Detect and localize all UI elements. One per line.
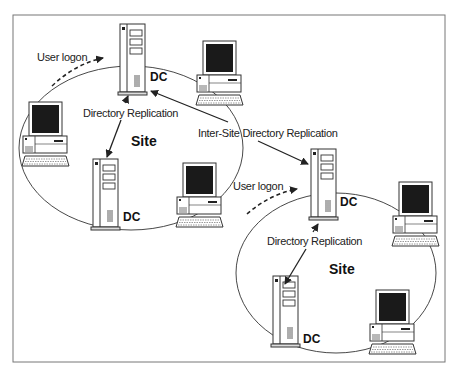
- domain-controller-3: [309, 149, 338, 220]
- user-logon-label: User logon: [37, 51, 87, 63]
- domain-controller-1: [118, 24, 147, 95]
- replication-arrow-up: [125, 96, 128, 103]
- dc-label: DC: [150, 70, 168, 84]
- directory-replication-label: Directory Replication: [267, 235, 362, 247]
- site-2: DC DC User logon Directory Replication S…: [233, 149, 439, 354]
- inter-site-replication: Inter-Site Directory Replication: [151, 91, 338, 164]
- replication-arrow-up: [313, 224, 318, 232]
- network-diagram: DC DC User logon Directory Replication S…: [0, 0, 459, 373]
- dc-label: DC: [303, 332, 321, 346]
- dc-label: DC: [340, 195, 358, 209]
- dc-label: DC: [123, 210, 141, 224]
- workstation-1c: [176, 163, 223, 227]
- workstation-1a: [196, 41, 243, 105]
- workstation-2a: [392, 182, 439, 246]
- domain-controller-2: [91, 159, 120, 230]
- workstation-2b: [369, 290, 416, 354]
- domain-controller-4: [271, 276, 300, 347]
- site-label: Site: [131, 133, 157, 149]
- user-logon-label: User logon: [233, 180, 283, 192]
- workstation-1b: [22, 102, 69, 166]
- replication-arrow-down: [107, 120, 121, 157]
- inter-site-arrow-to-site-2: [258, 141, 308, 164]
- site-label: Site: [329, 261, 355, 277]
- inter-site-replication-label: Inter-Site Directory Replication: [198, 127, 338, 139]
- directory-replication-label: Directory Replication: [83, 107, 178, 119]
- user-logon-arrow: [247, 189, 297, 214]
